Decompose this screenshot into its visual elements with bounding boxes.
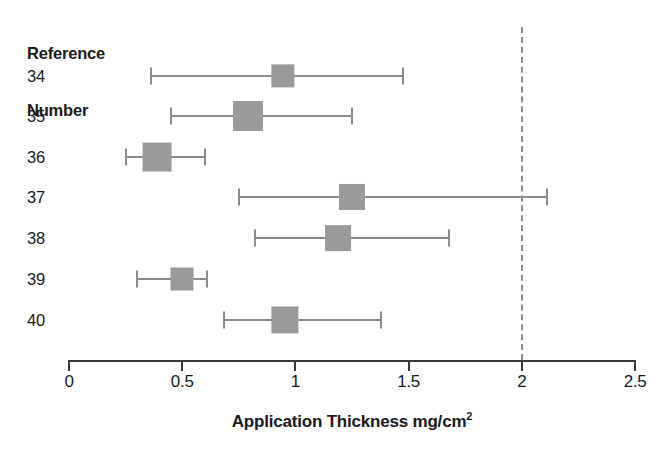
ci-cap-lower [170, 108, 172, 125]
point-estimate-box [233, 101, 263, 131]
ci-cap-lower [254, 230, 256, 247]
ci-cap-lower [136, 271, 138, 288]
x-axis-tick-label: 2.5 [624, 372, 647, 392]
plot-area: 00.511.522.5Application Thickness mg/cm2 [0, 0, 668, 453]
row-label-36: 36 [27, 149, 45, 166]
x-axis-title: Application Thickness mg/cm2 [232, 410, 472, 432]
x-axis-tick [68, 360, 70, 371]
x-axis-tick [521, 360, 523, 371]
row-label-40: 40 [27, 312, 45, 329]
x-axis-tick [408, 360, 410, 371]
row-label-37: 37 [27, 189, 45, 206]
confidence-interval-line [255, 237, 450, 239]
ci-cap-upper [380, 312, 382, 329]
ci-cap-upper [448, 230, 450, 247]
x-axis-tick [294, 360, 296, 371]
point-estimate-box [171, 268, 194, 291]
ci-cap-lower [150, 68, 152, 85]
x-axis-tick-label: 0 [64, 372, 73, 392]
confidence-interval-line [224, 319, 381, 321]
point-estimate-box [272, 306, 299, 333]
x-axis-tick-label: 0.5 [171, 372, 194, 392]
x-axis-line [69, 360, 635, 362]
x-axis-tick [634, 360, 636, 371]
row-label-34: 34 [27, 68, 45, 85]
x-axis-title-text: Application Thickness mg/cm [232, 412, 467, 431]
forest-plot-figure: Reference Number 00.511.522.5Application… [0, 0, 668, 453]
ci-cap-lower [223, 312, 225, 329]
point-estimate-box [326, 225, 352, 251]
ci-cap-lower [238, 189, 240, 206]
ci-cap-upper [546, 189, 548, 206]
ci-cap-upper [402, 68, 404, 85]
point-estimate-box [339, 184, 365, 210]
reference-line [521, 27, 523, 360]
row-label-35: 35 [27, 108, 45, 125]
point-estimate-box [143, 143, 172, 172]
x-axis-tick-label: 2 [517, 372, 526, 392]
x-axis-tick-label: 1.5 [397, 372, 420, 392]
ci-cap-upper [206, 271, 208, 288]
ci-cap-upper [204, 149, 206, 166]
row-label-38: 38 [27, 230, 45, 247]
ci-cap-upper [351, 108, 353, 125]
ci-cap-lower [125, 149, 127, 166]
x-axis-title-superscript: 2 [466, 410, 472, 422]
row-label-39: 39 [27, 271, 45, 288]
x-axis-tick-label: 1 [291, 372, 300, 392]
x-axis-tick [181, 360, 183, 371]
point-estimate-box [271, 64, 294, 87]
confidence-interval-line [239, 196, 547, 198]
